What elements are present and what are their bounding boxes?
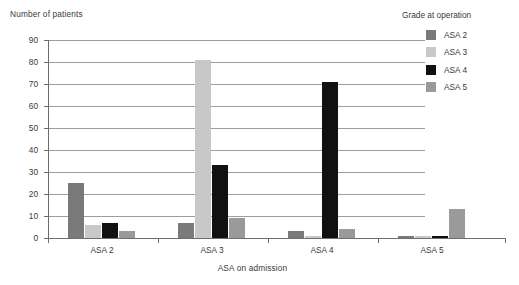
y-axis-tick-label: 60	[8, 101, 38, 111]
bar	[432, 236, 448, 238]
legend-label: ASA 2	[444, 30, 467, 40]
x-axis-category-label: ASA 5	[387, 245, 477, 255]
x-axis-tick-mark	[158, 238, 159, 243]
legend-item[interactable]: ASA 4	[426, 62, 519, 77]
x-axis-category-label: ASA 2	[57, 245, 147, 255]
y-axis-title: Number of patients	[10, 9, 83, 19]
legend-swatch	[426, 30, 436, 40]
x-axis-tick-mark	[505, 238, 506, 243]
x-axis-category-label: ASA 3	[167, 245, 257, 255]
y-axis-tick-label: 70	[8, 79, 38, 89]
x-axis-category-label: ASA 4	[277, 245, 367, 255]
bar-chart: Number of patients 0102030405060708090 A…	[0, 0, 519, 285]
y-axis-tick-label: 80	[8, 57, 38, 67]
bar	[322, 82, 338, 238]
legend-item[interactable]: ASA 5	[426, 80, 519, 95]
bar	[178, 223, 194, 238]
legend-title: Grade at operation	[402, 10, 519, 20]
y-axis-tick-label: 10	[8, 211, 38, 221]
legend-label: ASA 4	[444, 65, 467, 75]
legend-label: ASA 5	[444, 82, 467, 92]
bar	[85, 225, 101, 238]
y-axis-tick-label: 20	[8, 189, 38, 199]
bar	[119, 231, 135, 238]
bar	[305, 236, 321, 238]
bar	[195, 60, 211, 238]
bar	[339, 229, 355, 238]
legend-item[interactable]: ASA 3	[426, 45, 519, 60]
legend-label: ASA 3	[444, 47, 467, 57]
bar	[398, 236, 414, 238]
bar-group	[68, 40, 136, 238]
y-axis-tick-label: 0	[8, 233, 38, 243]
bar	[102, 223, 118, 238]
legend-swatch	[426, 65, 436, 75]
legend-swatch	[426, 47, 436, 57]
bar	[68, 183, 84, 238]
bar	[229, 218, 245, 238]
x-axis-tick-mark	[378, 238, 379, 243]
y-axis-tick-label: 40	[8, 145, 38, 155]
legend-swatch	[426, 82, 436, 92]
legend: Grade at operation ASA 2ASA 3ASA 4ASA 5	[426, 10, 519, 97]
legend-item[interactable]: ASA 2	[426, 27, 519, 42]
bar	[415, 236, 431, 238]
x-axis-line	[48, 238, 505, 239]
bar	[449, 209, 465, 238]
x-axis-title: ASA on admission	[0, 263, 505, 273]
y-axis-tick-label: 50	[8, 123, 38, 133]
bar-group	[288, 40, 356, 238]
bar	[288, 231, 304, 238]
x-axis-tick-mark	[48, 238, 49, 243]
bar-group	[178, 40, 246, 238]
x-axis-tick-mark	[268, 238, 269, 243]
bar	[212, 165, 228, 238]
y-axis-tick-label: 90	[8, 35, 38, 45]
y-axis-tick-label: 30	[8, 167, 38, 177]
